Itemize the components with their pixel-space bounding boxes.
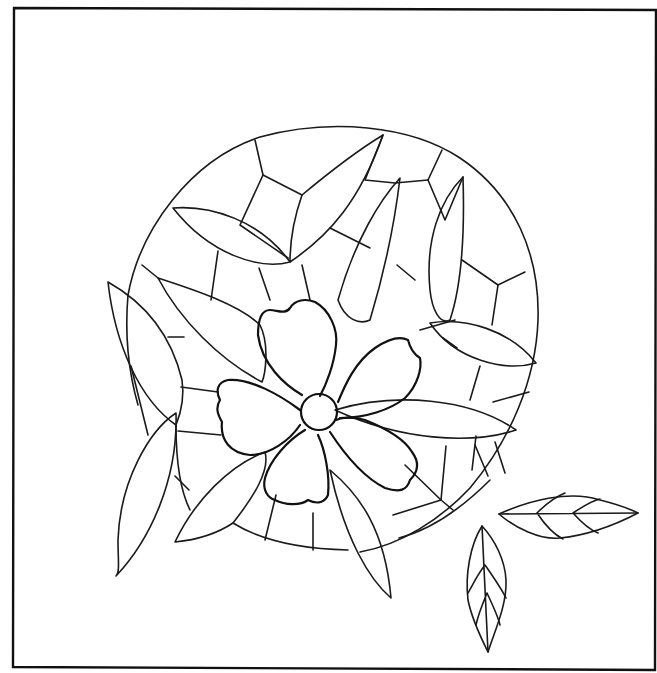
leaf-center-up [338, 178, 400, 322]
leaf-outer-left-lower [116, 413, 176, 576]
leaf-horizontal [499, 496, 638, 538]
lead-line [131, 366, 148, 435]
lead-line [142, 265, 158, 278]
lead-line [428, 150, 442, 180]
leaf-top-left [173, 208, 290, 264]
stained-glass-pattern [0, 0, 657, 673]
lead-line [397, 265, 415, 280]
lead-line [492, 285, 498, 325]
lead-line [211, 251, 218, 300]
lead-line [472, 436, 476, 470]
lead-line [441, 446, 453, 510]
medallion [127, 127, 538, 552]
lead-line [240, 175, 288, 258]
leaf-bottom-left [175, 452, 266, 542]
lead-line [265, 495, 276, 540]
leaf-outer-left-upper [108, 282, 183, 425]
leaf-top-center [290, 135, 383, 262]
lead-line [470, 366, 480, 400]
lead-line [255, 140, 302, 195]
leaf-right-middle [430, 322, 536, 366]
flower [217, 300, 420, 504]
leaf-horizontal-vein [499, 493, 638, 539]
medallion-leaves [108, 135, 536, 598]
petal-top [258, 300, 336, 396]
detached-leaves [467, 493, 638, 652]
lead-line [178, 431, 221, 435]
medallion-outline [128, 127, 538, 552]
leaf-bottom-right [330, 470, 391, 598]
lead-line [493, 392, 529, 402]
petal-bottom-left [264, 430, 328, 504]
medallion-outline-left-low [176, 425, 190, 510]
petal-bottom-right [330, 418, 417, 491]
frame-border [13, 8, 656, 670]
flower-center [301, 394, 337, 430]
lead-line [259, 268, 270, 300]
lead-line [181, 387, 218, 392]
medallion-outline-lower [233, 523, 348, 550]
lead-line [475, 445, 488, 476]
artwork-canvas [0, 0, 657, 673]
lead-line [462, 260, 525, 285]
lead-line [302, 265, 310, 300]
leaf-right-upper [429, 177, 463, 321]
